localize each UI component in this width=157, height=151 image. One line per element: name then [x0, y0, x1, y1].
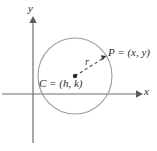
- y-axis: [29, 16, 36, 143]
- circle-diagram: y x P = (x, y) C = (h, k) r: [0, 0, 157, 151]
- center-c-label: C = (h, k): [39, 78, 82, 89]
- y-axis-arrowhead-icon: [29, 16, 36, 23]
- x-axis-label: x: [144, 86, 149, 97]
- x-axis-arrowhead-icon: [136, 90, 143, 98]
- radius-label: r: [85, 57, 89, 67]
- y-axis-label: y: [28, 3, 33, 14]
- point-p-label: P = (x, y): [108, 47, 150, 58]
- x-axis: [2, 90, 143, 98]
- diagram-canvas: [0, 0, 157, 151]
- radius-segment: [75, 55, 107, 76]
